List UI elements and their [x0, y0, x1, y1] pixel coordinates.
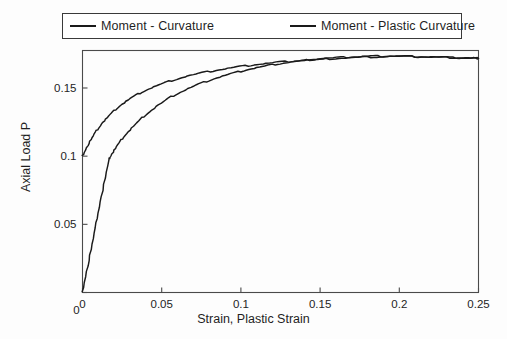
plot-canvas — [0, 0, 507, 339]
line-swatch-icon — [290, 25, 316, 27]
chart-legend: Moment - Curvature Moment - Plastic Curv… — [62, 13, 462, 39]
series-line-0 — [82, 56, 478, 292]
legend-label: Moment - Curvature — [101, 19, 214, 33]
x-tick-label: 0.2 — [391, 298, 407, 310]
legend-entry-moment-plastic-curvature: Moment - Plastic Curvature — [290, 14, 475, 38]
legend-entry-moment-curvature: Moment - Curvature — [70, 14, 214, 38]
x-tick-label: 0.25 — [467, 298, 489, 310]
x-tick-label: 0 — [79, 298, 85, 310]
series-line-1 — [82, 56, 478, 156]
y-tick-label: 0 — [73, 304, 79, 316]
x-tick-label: 0.15 — [309, 298, 331, 310]
y-tick-label: 0.05 — [35, 218, 77, 230]
legend-label: Moment - Plastic Curvature — [321, 19, 475, 33]
line-swatch-icon — [70, 25, 96, 27]
plot-frame — [83, 51, 479, 293]
y-tick-label: 0.1 — [35, 150, 77, 162]
y-tick-label: 0.15 — [35, 82, 77, 94]
data-series-group — [82, 56, 478, 292]
y-axis-title: Axial Load P — [19, 87, 33, 227]
axis-ticks — [83, 88, 479, 293]
x-tick-label: 0.05 — [150, 298, 172, 310]
x-tick-label: 0.1 — [233, 298, 249, 310]
chart-figure: Moment - Curvature Moment - Plastic Curv… — [0, 0, 507, 339]
